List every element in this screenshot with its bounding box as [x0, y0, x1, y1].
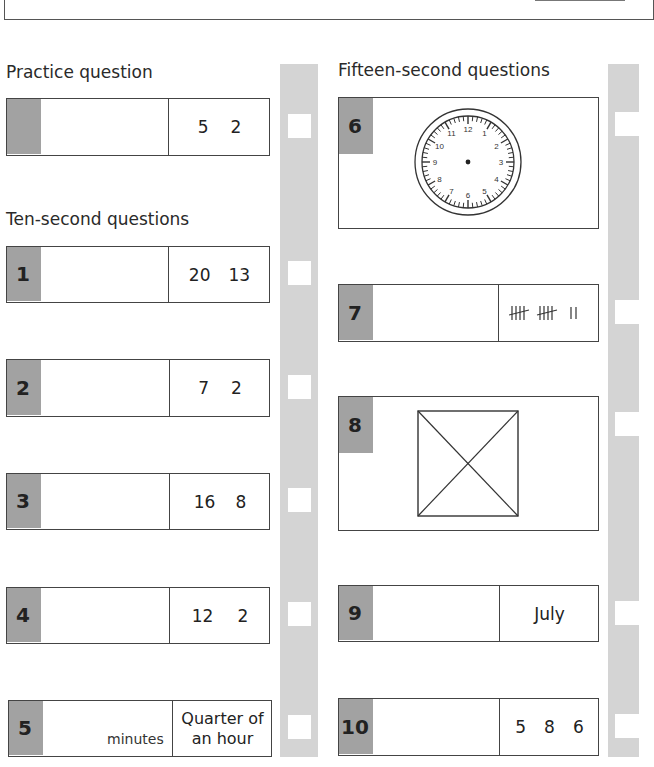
question-number-tab: 7 — [339, 285, 373, 340]
question-5-box: 5 minutes Quarter of an hour — [8, 700, 272, 757]
fifteen-second-heading: Fifteen-second questions — [338, 60, 550, 80]
question-4-box: 4 12 2 — [6, 587, 270, 644]
box-divider — [172, 701, 173, 756]
value: 7 — [198, 378, 209, 398]
question-number-tab: 10 — [339, 699, 373, 754]
svg-text:11: 11 — [447, 129, 456, 138]
svg-text:1: 1 — [482, 129, 487, 138]
unit-label: minutes — [107, 731, 164, 747]
value: 5 — [515, 717, 526, 737]
svg-text:9: 9 — [433, 158, 438, 167]
svg-text:12: 12 — [464, 125, 473, 134]
box-divider — [168, 247, 169, 302]
svg-text:6: 6 — [466, 191, 471, 200]
question-number-tab: 6 — [339, 98, 373, 154]
value: 2 — [231, 117, 242, 137]
question-number-tab: 9 — [339, 586, 373, 640]
question-5-prompt: Quarter of an hour — [174, 701, 271, 756]
value: 2 — [237, 606, 248, 626]
question-number-tab: 4 — [7, 588, 41, 642]
question-10-values: 5 8 6 — [501, 699, 598, 755]
answer-box-2[interactable] — [288, 375, 311, 399]
question-1-values: 20 13 — [170, 247, 269, 302]
header-line — [535, 0, 625, 1]
question-number-tab: 5 — [9, 701, 43, 755]
box-divider — [169, 360, 170, 416]
answer-strip-right — [608, 64, 639, 757]
answer-box-6[interactable] — [615, 112, 639, 136]
question-number-tab: 3 — [7, 474, 41, 528]
question-3-box: 3 16 8 — [6, 473, 270, 530]
practice-heading: Practice question — [6, 62, 153, 82]
question-7-box: 7 — [338, 284, 599, 342]
svg-text:5: 5 — [482, 187, 487, 196]
value: 2 — [231, 378, 242, 398]
header-box — [4, 0, 654, 20]
prompt-line: Quarter of — [181, 709, 263, 729]
answer-box-9[interactable] — [615, 601, 639, 625]
box-divider — [169, 588, 170, 643]
value: 6 — [573, 717, 584, 737]
square-diagonals-icon — [417, 410, 520, 518]
question-9-box: 9 July — [338, 585, 599, 642]
answer-box-4[interactable] — [288, 602, 311, 626]
question-8-box: 8 — [338, 396, 599, 531]
clock-face-icon: 121234567891011 — [412, 106, 524, 218]
value: 20 — [189, 265, 211, 285]
box-divider — [169, 474, 170, 529]
answer-box-10[interactable] — [615, 714, 639, 738]
question-6-box: 6 121234567891011 — [338, 97, 599, 229]
svg-text:2: 2 — [494, 142, 499, 151]
question-number-tab: 8 — [339, 397, 373, 453]
question-2-box: 2 7 2 — [6, 359, 270, 417]
value: 8 — [544, 717, 555, 737]
practice-values: 5 2 — [170, 99, 269, 155]
box-divider — [499, 586, 500, 641]
svg-text:10: 10 — [435, 142, 444, 151]
question-3-values: 16 8 — [171, 474, 269, 529]
answer-box-7[interactable] — [615, 300, 639, 324]
svg-text:4: 4 — [494, 175, 499, 184]
box-divider — [499, 699, 500, 755]
value: 5 — [198, 117, 209, 137]
value: 13 — [229, 265, 251, 285]
answer-box-1[interactable] — [288, 261, 311, 285]
tally-marks-icon — [509, 302, 594, 324]
question-number-tab: 1 — [7, 247, 41, 301]
answer-box-5[interactable] — [288, 715, 311, 739]
value: 8 — [235, 492, 246, 512]
box-divider — [498, 285, 499, 341]
question-9-prompt: July — [501, 586, 598, 641]
answer-strip-left — [280, 64, 318, 757]
question-10-box: 10 5 8 6 — [338, 698, 599, 756]
answer-box-3[interactable] — [288, 488, 311, 512]
value: 12 — [192, 606, 214, 626]
svg-text:3: 3 — [499, 158, 504, 167]
question-number-tab — [7, 99, 41, 154]
practice-question-box: 5 2 — [6, 98, 270, 156]
question-4-values: 12 2 — [171, 588, 269, 643]
question-number-tab: 2 — [7, 360, 41, 415]
question-1-box: 1 20 13 — [6, 246, 270, 303]
answer-box-practice[interactable] — [288, 114, 311, 138]
box-divider — [168, 99, 169, 155]
svg-text:8: 8 — [437, 175, 442, 184]
svg-text:7: 7 — [449, 187, 454, 196]
ten-second-heading: Ten-second questions — [6, 209, 189, 229]
prompt-line: an hour — [192, 729, 254, 749]
value: 16 — [194, 492, 216, 512]
answer-box-8[interactable] — [615, 412, 639, 436]
question-2-values: 7 2 — [171, 360, 269, 416]
